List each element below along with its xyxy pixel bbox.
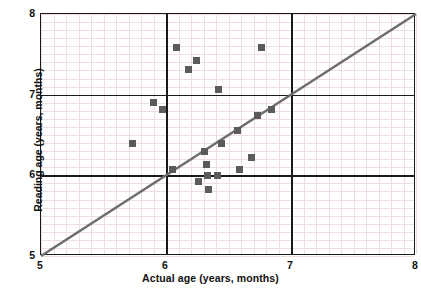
data-point [185, 66, 192, 73]
data-point [150, 99, 157, 106]
data-point [214, 172, 221, 179]
x-tick-label: 5 [37, 259, 43, 271]
data-point [129, 140, 136, 147]
data-point [203, 161, 210, 168]
data-point [254, 112, 261, 119]
x-tick-label: 6 [162, 259, 168, 271]
data-point [159, 106, 166, 113]
data-point [268, 106, 275, 113]
gridline-vertical-minor [416, 14, 417, 254]
data-point [193, 57, 200, 64]
data-point [248, 154, 255, 161]
y-tick-label: 8 [19, 7, 35, 19]
scatter-chart: 5678 5678 Actual age (years, months) Rea… [0, 0, 421, 292]
data-point [234, 127, 241, 134]
data-point [195, 178, 202, 185]
x-tick-label: 8 [412, 259, 418, 271]
reference-line-yx [41, 14, 416, 256]
y-axis-label: Reading age (years, months) [32, 40, 44, 240]
data-point [201, 148, 208, 155]
data-point [258, 44, 265, 51]
data-point [173, 44, 180, 51]
data-point [205, 186, 212, 193]
data-point [215, 86, 222, 93]
x-axis-label: Actual age (years, months) [0, 272, 421, 284]
x-tick-label: 7 [287, 259, 293, 271]
data-point [236, 166, 243, 173]
data-point [218, 140, 225, 147]
plot-area [40, 13, 415, 255]
gridline-horizontal-minor [41, 256, 414, 257]
y-tick-label: 5 [19, 249, 35, 261]
data-point [204, 172, 211, 179]
data-point [169, 166, 176, 173]
